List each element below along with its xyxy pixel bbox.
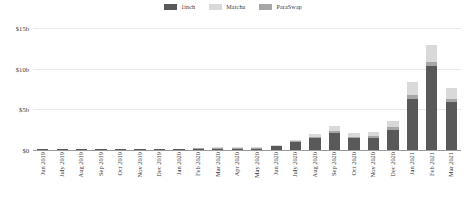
x-tick: Dec 2020 xyxy=(383,151,402,199)
x-tick: Dec 2019 xyxy=(150,151,169,199)
x-tick: Apr 2020 xyxy=(228,151,247,199)
bar-stack[interactable] xyxy=(426,45,437,150)
bar-stack[interactable] xyxy=(446,88,457,150)
x-tick: Sep 2019 xyxy=(91,151,110,199)
bar-segment-1inch xyxy=(173,149,184,150)
bar-stack[interactable] xyxy=(57,149,68,150)
bar-slot xyxy=(344,28,363,150)
bar-segment-1inch xyxy=(37,149,48,150)
bar-segment-matcha xyxy=(426,45,437,62)
bar-stack[interactable] xyxy=(37,149,48,150)
x-axis: Jun 2019July 2019Aug 2019Sep 2019Oct 201… xyxy=(33,151,461,199)
bar-stack[interactable] xyxy=(193,148,204,150)
bar-segment-1inch xyxy=(212,149,223,150)
x-tick: Aug 2020 xyxy=(305,151,324,199)
legend-label-matcha: Matcha xyxy=(226,4,245,10)
bar-stack[interactable] xyxy=(407,82,418,150)
x-tick-label: Sep 2019 xyxy=(98,152,104,176)
bar-stack[interactable] xyxy=(290,140,301,150)
bar-segment-1inch xyxy=(309,138,320,150)
bar-stack[interactable] xyxy=(76,149,87,150)
bar-stack[interactable] xyxy=(251,147,262,150)
x-tick: Nov 2020 xyxy=(364,151,383,199)
bar-segment-1inch xyxy=(407,99,418,150)
legend-item-matcha: Matcha xyxy=(209,4,245,10)
bar-slot xyxy=(422,28,441,150)
x-tick-label: May 2020 xyxy=(254,152,260,178)
legend-item-paraswap: ParaSwap xyxy=(259,4,302,10)
x-tick-label: Jan 2021 xyxy=(409,152,415,175)
bar-segment-1inch xyxy=(76,149,87,150)
x-tick-label: Oct 2020 xyxy=(351,152,357,176)
bar-stack[interactable] xyxy=(154,149,165,150)
bar-slot xyxy=(111,28,130,150)
bar-slot xyxy=(266,28,285,150)
y-tick-label: $10b xyxy=(16,65,29,72)
bar-segment-1inch xyxy=(232,149,243,150)
bar-slot xyxy=(305,28,324,150)
plot-area xyxy=(33,28,461,150)
bar-segment-1inch xyxy=(329,133,340,150)
bar-slot xyxy=(208,28,227,150)
x-tick: July 2019 xyxy=(52,151,71,199)
x-tick-label: Jun 2020 xyxy=(273,152,279,175)
bar-segment-1inch xyxy=(95,149,106,150)
bar-segment-1inch xyxy=(115,149,126,150)
bar-stack[interactable] xyxy=(212,147,223,150)
bar-stack[interactable] xyxy=(348,133,359,150)
x-tick-label: Aug 2020 xyxy=(312,152,318,177)
bar-slot xyxy=(286,28,305,150)
bar-stack[interactable] xyxy=(134,149,145,150)
bar-stack[interactable] xyxy=(271,145,282,150)
bar-stack[interactable] xyxy=(232,147,243,150)
x-tick: Feb 2021 xyxy=(422,151,441,199)
x-tick-label: July 2020 xyxy=(292,152,298,177)
chart-legend: 1inch Matcha ParaSwap xyxy=(0,2,466,13)
x-tick: Sep 2020 xyxy=(325,151,344,199)
bar-slot xyxy=(72,28,91,150)
y-tick-label: $0 xyxy=(22,147,29,154)
bar-stack[interactable] xyxy=(95,149,106,150)
bar-segment-1inch xyxy=(290,142,301,150)
bar-segment-1inch xyxy=(251,149,262,150)
y-axis: $0$5b$10b$15b xyxy=(0,28,33,150)
bar-stack[interactable] xyxy=(329,126,340,150)
bar-series-container xyxy=(33,28,461,150)
bar-stack[interactable] xyxy=(173,149,184,150)
x-tick-label: Dec 2019 xyxy=(156,152,162,177)
legend-swatch-matcha xyxy=(209,4,222,10)
x-tick-label: Jan 2020 xyxy=(176,152,182,175)
x-tick: Jun 2020 xyxy=(266,151,285,199)
bar-segment-1inch xyxy=(368,138,379,150)
bar-segment-1inch xyxy=(387,130,398,150)
bar-slot xyxy=(247,28,266,150)
x-tick: Nov 2019 xyxy=(130,151,149,199)
bar-slot xyxy=(52,28,71,150)
bar-slot xyxy=(91,28,110,150)
bar-slot xyxy=(403,28,422,150)
x-tick: Jun 2019 xyxy=(33,151,52,199)
bar-slot xyxy=(130,28,149,150)
x-tick-label: Dec 2020 xyxy=(390,152,396,177)
bar-slot xyxy=(189,28,208,150)
legend-label-paraswap: ParaSwap xyxy=(276,4,302,10)
bar-stack[interactable] xyxy=(309,134,320,150)
x-tick: Jan 2020 xyxy=(169,151,188,199)
x-tick-label: Oct 2019 xyxy=(117,152,123,176)
bar-stack[interactable] xyxy=(387,121,398,150)
bar-segment-1inch xyxy=(426,66,437,150)
bar-segment-1inch xyxy=(193,149,204,150)
x-tick: Mar 2020 xyxy=(208,151,227,199)
bar-stack[interactable] xyxy=(368,132,379,150)
legend-item-1inch: 1inch xyxy=(164,4,195,10)
bar-segment-1inch xyxy=(134,149,145,150)
x-tick-label: Mar 2021 xyxy=(448,152,454,177)
bar-slot xyxy=(364,28,383,150)
bar-stack[interactable] xyxy=(115,149,126,150)
x-tick-label: Jun 2019 xyxy=(40,152,46,175)
bar-segment-1inch xyxy=(154,149,165,150)
bar-segment-1inch xyxy=(271,146,282,150)
bar-segment-1inch xyxy=(446,102,457,150)
stacked-bar-chart: 1inch Matcha ParaSwap $0$5b$10b$15b Jun … xyxy=(0,0,466,200)
legend-swatch-1inch xyxy=(164,4,177,10)
